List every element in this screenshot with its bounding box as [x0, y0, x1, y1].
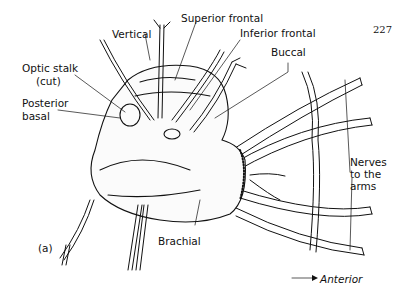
- label-vertical: Vertical: [112, 28, 151, 40]
- label-anterior: Anterior: [320, 273, 362, 285]
- label-nerves: Nerves: [350, 156, 387, 168]
- page-number: 227: [373, 24, 392, 35]
- label-inferior-frontal: Inferior frontal: [240, 27, 316, 39]
- brain-mass: [91, 65, 245, 222]
- label-posterior: Posterior: [22, 97, 68, 109]
- figure-panel-label: (a): [38, 242, 53, 254]
- label-brachial: Brachial: [158, 235, 201, 247]
- label-to-the: to the: [350, 168, 381, 180]
- label-buccal: Buccal: [271, 46, 306, 58]
- brain-nerve-illustration: [0, 0, 413, 292]
- label-optic-stalk: Optic stalk: [22, 62, 78, 74]
- label-optic-stalk-cut: (cut): [36, 75, 61, 87]
- label-basal: basal: [22, 110, 50, 122]
- label-superior-frontal: Superior frontal: [181, 12, 263, 24]
- label-arms: arms: [350, 180, 376, 192]
